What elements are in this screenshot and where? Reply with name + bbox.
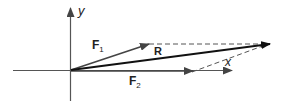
x-axis-label: x bbox=[224, 55, 232, 69]
y-axis-label: y bbox=[77, 3, 86, 18]
vector-diagram-canvas: y x F1 R F2 bbox=[0, 0, 287, 103]
axes bbox=[13, 8, 232, 101]
f2-label: F2 bbox=[129, 74, 141, 90]
r-label: R bbox=[154, 45, 162, 57]
f1-label: F1 bbox=[92, 38, 104, 54]
vector-f1 bbox=[71, 44, 149, 70]
vector-diagram: y x F1 R F2 bbox=[0, 0, 287, 103]
